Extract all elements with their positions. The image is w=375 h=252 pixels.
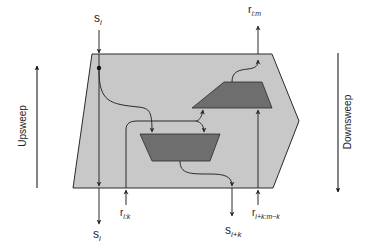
label-s-i-top: si: [94, 11, 102, 27]
label-s-i-bottom: si: [93, 227, 101, 243]
downsweep-label: Downsweep: [342, 94, 353, 149]
label-r-i-k-bottom: ri:k: [120, 207, 131, 220]
label-r-i-m-top: ri:m: [248, 3, 261, 17]
label-r-i-k-m-k-bottom: ri+k:m−k: [252, 207, 280, 220]
label-s-i-k-bottom: si+k: [225, 223, 242, 239]
scan-node-diagram: Upsweep Downsweep si ri:m ri:k si si+k r…: [0, 0, 375, 252]
operator-lower: [140, 134, 220, 161]
upsweep-label: Upsweep: [17, 105, 28, 147]
split-junction-dot: [97, 66, 101, 70]
